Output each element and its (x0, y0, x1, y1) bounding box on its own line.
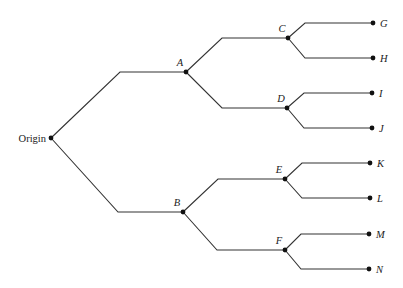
node-label-l: L (376, 193, 383, 204)
node-label-g: G (380, 18, 388, 29)
edge-b-e (183, 179, 285, 212)
tree-diagram: OriginABCDEFGHIJKLMN (0, 0, 403, 288)
node-label-j: J (379, 123, 385, 134)
node-label-n: N (375, 264, 384, 275)
edge-f-m (285, 234, 369, 250)
edge-a-d (186, 72, 287, 108)
node-label-m: M (375, 229, 386, 240)
edge-origin-a (51, 72, 186, 138)
edge-b-f (183, 212, 285, 250)
edge-a-c (186, 38, 288, 72)
node-label-a: A (176, 57, 184, 68)
node-label-c: C (278, 23, 286, 34)
tree-nodes: OriginABCDEFGHIJKLMN (19, 18, 389, 275)
node-dot-i (370, 91, 375, 96)
edge-c-g (288, 23, 373, 38)
node-label-b: B (174, 197, 181, 208)
node-label-i: I (378, 88, 383, 99)
node-dot-d (285, 106, 290, 111)
node-label-origin: Origin (19, 133, 47, 144)
node-dot-c (286, 36, 291, 41)
node-dot-origin (49, 136, 54, 141)
node-dot-f (283, 248, 288, 253)
edge-d-j (287, 108, 372, 128)
node-dot-k (368, 161, 373, 166)
node-dot-h (371, 56, 376, 61)
edge-c-h (288, 38, 373, 58)
node-label-e: E (275, 164, 283, 175)
node-dot-j (370, 126, 375, 131)
node-dot-m (367, 232, 372, 237)
node-dot-a (184, 70, 189, 75)
node-dot-b (181, 210, 186, 215)
edge-e-l (285, 179, 370, 198)
node-label-d: D (276, 93, 285, 104)
node-label-f: F (275, 235, 283, 246)
node-label-k: K (376, 158, 385, 169)
edge-origin-b (51, 138, 183, 212)
tree-edges (51, 23, 373, 269)
edge-d-i (287, 93, 372, 108)
node-dot-n (367, 267, 372, 272)
node-dot-l (368, 196, 373, 201)
node-dot-e (283, 177, 288, 182)
node-label-h: H (379, 53, 389, 64)
edge-f-n (285, 250, 369, 269)
tree-diagram-svg: OriginABCDEFGHIJKLMN (0, 0, 403, 288)
node-dot-g (371, 21, 376, 26)
edge-e-k (285, 163, 370, 179)
